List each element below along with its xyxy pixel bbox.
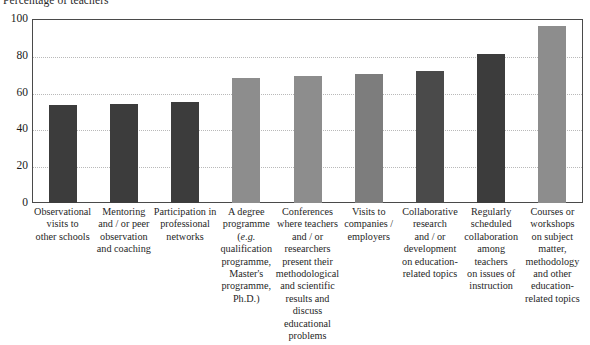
x-axis-label-line: companies / xyxy=(335,218,402,230)
bar xyxy=(49,105,77,203)
x-axis-label: Conferenceswhere teachersand / orresearc… xyxy=(274,206,341,342)
x-axis-label-line: Visits to xyxy=(335,206,402,218)
y-tick-label-100: 100 xyxy=(2,13,28,25)
x-axis-label-line: matter, xyxy=(519,243,586,255)
x-axis-labels: Observationalvisits toother schoolsMento… xyxy=(32,206,583,345)
bar xyxy=(477,54,505,203)
chart-title: Percentage of teachers xyxy=(3,0,109,6)
x-axis-label-line: related topics xyxy=(396,268,463,280)
bar xyxy=(538,26,566,203)
x-axis-label-line: discuss xyxy=(274,305,341,317)
x-axis-label-line: and other xyxy=(519,268,586,280)
x-axis-label-line: present their xyxy=(274,256,341,268)
x-axis-label-line: education- xyxy=(519,280,586,292)
x-axis-label-line: Observational xyxy=(29,206,96,218)
y-axis: 020406080100 xyxy=(0,19,28,203)
x-axis-label: Mentoringand / or peerobservationand coa… xyxy=(90,206,157,256)
x-axis-label-line: programme xyxy=(213,218,280,230)
x-axis-label-line: and scientific xyxy=(274,280,341,292)
x-axis-label: Courses orworkshopson subjectmatter,meth… xyxy=(519,206,586,305)
x-axis-label: Regularlyscheduledcollaborationamongteac… xyxy=(458,206,525,293)
bar xyxy=(232,78,260,203)
x-axis-label-line: networks xyxy=(151,231,218,243)
x-axis-label-line: instruction xyxy=(458,280,525,292)
x-axis-label-line: problems xyxy=(274,330,341,342)
x-axis-label-line: Collaborative xyxy=(396,206,463,218)
x-axis-label-line: Mentoring xyxy=(90,206,157,218)
x-axis-label-line: related topics xyxy=(519,293,586,305)
y-tick-label-60: 60 xyxy=(2,87,28,99)
x-axis-label-line: and / or xyxy=(274,231,341,243)
x-axis-label-line: workshops xyxy=(519,218,586,230)
x-axis-label: Collaborativeresearchand / ordevelopment… xyxy=(396,206,463,280)
bar xyxy=(416,71,444,203)
bar xyxy=(171,102,199,203)
x-axis-label: Observationalvisits toother schools xyxy=(29,206,96,243)
y-tick-label-80: 80 xyxy=(2,50,28,62)
x-axis-label-line: and coaching xyxy=(90,243,157,255)
bar xyxy=(355,74,383,203)
x-axis-label-line: teachers xyxy=(458,256,525,268)
x-axis-label-line: researchers xyxy=(274,243,341,255)
x-axis-label-line: employers xyxy=(335,231,402,243)
x-axis-label-line: Participation in xyxy=(151,206,218,218)
x-axis-label-line: A degree xyxy=(213,206,280,218)
x-axis-label-line: among xyxy=(458,243,525,255)
x-axis-label-line: qualification xyxy=(213,243,280,255)
x-axis-label-line: Ph.D.) xyxy=(213,293,280,305)
x-axis-label-line: methodology xyxy=(519,256,586,268)
x-axis-label-line: and / or xyxy=(396,231,463,243)
x-axis-label-line: where teachers xyxy=(274,218,341,230)
x-axis-label-line: Regularly xyxy=(458,206,525,218)
x-axis-label-line: and / or peer xyxy=(90,218,157,230)
x-axis-label-line: results and xyxy=(274,293,341,305)
x-axis-label-line: professional xyxy=(151,218,218,230)
x-axis-label-line: Master's xyxy=(213,268,280,280)
x-axis-label-line: scheduled xyxy=(458,218,525,230)
bars-series xyxy=(32,19,583,203)
x-axis-label: A degreeprogramme(e.g.qualificationprogr… xyxy=(213,206,280,305)
x-axis-label-line: collaboration xyxy=(458,231,525,243)
x-axis-label-line: on subject xyxy=(519,231,586,243)
x-axis-label-line: visits to xyxy=(29,218,96,230)
x-axis-label-line: Courses or xyxy=(519,206,586,218)
x-axis-label-line: development xyxy=(396,243,463,255)
x-axis-label-line: programme, xyxy=(213,256,280,268)
x-axis-label-line: methodological xyxy=(274,268,341,280)
x-axis-label-line: on issues of xyxy=(458,268,525,280)
x-axis-label-line: programme, xyxy=(213,280,280,292)
y-tick-label-20: 20 xyxy=(2,160,28,172)
x-axis-label-line: research xyxy=(396,218,463,230)
x-axis-label: Participation inprofessionalnetworks xyxy=(151,206,218,243)
x-axis-label-line: observation xyxy=(90,231,157,243)
x-axis-label-line: other schools xyxy=(29,231,96,243)
x-axis-label-line: educational xyxy=(274,318,341,330)
bar xyxy=(294,76,322,203)
bar xyxy=(110,104,138,203)
x-axis-label-line: Conferences xyxy=(274,206,341,218)
y-tick-label-40: 40 xyxy=(2,123,28,135)
x-axis-label-line: on education- xyxy=(396,256,463,268)
x-axis-label-line: (e.g. xyxy=(213,231,280,243)
y-tick-label-0: 0 xyxy=(2,197,28,209)
bar-chart: Percentage of teachers 020406080100 Obse… xyxy=(0,0,590,345)
x-axis-label: Visits tocompanies /employers xyxy=(335,206,402,243)
